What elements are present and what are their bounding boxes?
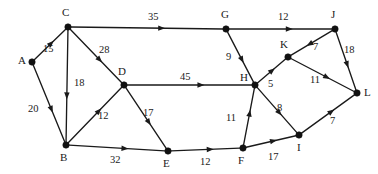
edge-b-d	[68, 87, 122, 142]
edge-weight-b-d: 12	[98, 111, 109, 122]
edge-c-b	[66, 30, 68, 142]
edge-weight-d-e: 17	[143, 108, 154, 119]
arrowhead-g-h	[238, 56, 244, 63]
node-label-f: F	[238, 155, 244, 166]
node-label-d: D	[118, 66, 126, 77]
edge-weight-f-i: 17	[268, 152, 279, 163]
node-label-k: K	[280, 39, 288, 50]
arrowhead-f-h	[246, 110, 251, 117]
node-k[interactable]	[285, 54, 291, 60]
node-label-j: J	[331, 9, 335, 20]
edge-weight-c-g: 35	[148, 12, 159, 23]
edges-layer	[33, 25, 356, 152]
node-a[interactable]	[29, 59, 35, 65]
arrowhead-j-l	[344, 60, 349, 67]
edge-weight-d-h: 45	[180, 72, 191, 83]
node-label-l: L	[364, 87, 371, 98]
node-h[interactable]	[252, 82, 258, 88]
edge-i-l	[302, 95, 355, 133]
edge-c-g	[71, 27, 223, 29]
node-label-e: E	[163, 158, 170, 169]
arrowhead-a-b	[48, 105, 53, 113]
edge-j-l	[336, 32, 356, 90]
node-label-h: H	[240, 72, 248, 83]
edge-weight-g-h: 9	[226, 52, 231, 63]
node-i[interactable]	[296, 132, 302, 138]
node-e[interactable]	[165, 148, 171, 154]
node-label-c: C	[62, 7, 69, 18]
edge-weight-k-l: 11	[310, 75, 320, 86]
edge-weight-a-c: 15	[43, 44, 54, 55]
arrowhead-g-j	[286, 26, 293, 31]
node-b[interactable]	[63, 142, 69, 148]
edge-weight-h-i: 8	[277, 103, 282, 114]
node-f[interactable]	[240, 145, 246, 151]
edge-b-e	[69, 145, 165, 151]
arrowhead-c-b	[64, 92, 69, 99]
edge-weight-g-j: 12	[278, 12, 289, 23]
node-g[interactable]	[223, 26, 229, 32]
arrowhead-d-e	[145, 118, 151, 125]
edge-weight-f-h: 11	[226, 113, 236, 124]
edge-weight-j-l: 18	[344, 45, 355, 56]
edge-c-d	[70, 29, 122, 82]
edge-weight-c-b: 18	[74, 78, 85, 89]
edge-weight-b-e: 32	[110, 155, 121, 166]
edge-weight-j-k: 7	[313, 42, 318, 53]
node-label-a: A	[18, 55, 26, 66]
node-l[interactable]	[354, 90, 360, 96]
edge-weight-a-b: 20	[28, 104, 39, 115]
arrowhead-k-l	[323, 73, 330, 79]
node-label-g: G	[221, 9, 229, 20]
node-c[interactable]	[65, 24, 71, 30]
edge-weight-c-d: 28	[99, 45, 110, 56]
node-label-b: B	[60, 152, 67, 163]
arrowhead-b-e	[121, 146, 128, 151]
arrowhead-d-h	[197, 82, 204, 87]
graph-canvas	[0, 0, 378, 174]
edge-weight-h-k: 5	[268, 79, 273, 90]
node-d[interactable]	[121, 82, 127, 88]
edge-weight-i-l: 7	[330, 116, 335, 127]
arrowhead-c-g	[158, 25, 165, 30]
arrowhead-e-f	[207, 147, 214, 152]
edge-e-f	[171, 148, 240, 151]
node-j[interactable]	[332, 26, 338, 32]
node-label-i: I	[297, 142, 301, 153]
graph-figure: 15201828351232174512129111758718117ABCDE…	[0, 0, 378, 174]
edge-weight-e-f: 12	[200, 157, 211, 168]
